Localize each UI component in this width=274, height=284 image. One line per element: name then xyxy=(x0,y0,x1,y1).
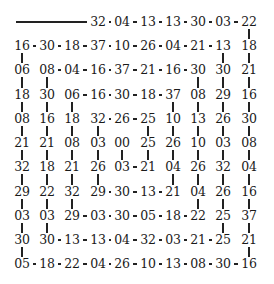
grid-number: 03 xyxy=(87,136,109,150)
grid-number: 30 xyxy=(11,233,33,247)
grid-number: 37 xyxy=(87,39,109,53)
grid-number: 21 xyxy=(36,136,58,150)
grid-number: 29 xyxy=(212,88,234,102)
grid-number: 03 xyxy=(162,233,184,247)
grid-number: 37 xyxy=(111,63,133,77)
grid-number: 21 xyxy=(238,63,260,77)
grid-number: 26 xyxy=(87,160,109,174)
grid-number: 08 xyxy=(187,257,209,271)
grid-number: 08 xyxy=(187,88,209,102)
grid-number: 04 xyxy=(162,39,184,53)
grid-number: 18 xyxy=(36,160,58,174)
grid-number: 08 xyxy=(61,136,83,150)
grid-number: 18 xyxy=(162,209,184,223)
grid-number: 30 xyxy=(238,112,260,126)
grid-number: 10 xyxy=(162,112,184,126)
grid-number: 03 xyxy=(212,136,234,150)
grid-number: 06 xyxy=(11,63,33,77)
grid-number: 03 xyxy=(87,209,109,223)
grid-number: 32 xyxy=(61,185,83,199)
grid-number: 05 xyxy=(11,257,33,271)
grid-number: 03 xyxy=(11,209,33,223)
grid-number: 25 xyxy=(212,233,234,247)
grid-number: 21 xyxy=(187,39,209,53)
start-line xyxy=(16,21,88,22)
grid-number: 04 xyxy=(162,160,184,174)
grid-number: 18 xyxy=(137,88,159,102)
grid-number: 32 xyxy=(11,160,33,174)
grid-number: 22 xyxy=(61,257,83,271)
grid-number: 30 xyxy=(111,88,133,102)
grid-number: 16 xyxy=(238,88,260,102)
grid-number: 18 xyxy=(61,39,83,53)
grid-number: 13 xyxy=(212,39,234,53)
grid-number: 32 xyxy=(212,160,234,174)
grid-number: 22 xyxy=(36,185,58,199)
grid-number: 13 xyxy=(87,233,109,247)
grid-number: 21 xyxy=(238,233,260,247)
grid-number: 18 xyxy=(11,88,33,102)
grid-number: 16 xyxy=(238,185,260,199)
grid-number: 26 xyxy=(212,185,234,199)
grid-number: 37 xyxy=(238,209,260,223)
grid-number: 22 xyxy=(238,15,260,29)
grid-number: 13 xyxy=(137,185,159,199)
grid-number: 26 xyxy=(187,160,209,174)
grid-number: 32 xyxy=(87,112,109,126)
grid-number: 08 xyxy=(36,63,58,77)
grid-number: 32 xyxy=(87,15,109,29)
grid-number: 22 xyxy=(187,209,209,223)
grid-number: 32 xyxy=(137,233,159,247)
grid-number: 30 xyxy=(187,63,209,77)
grid-number: 16 xyxy=(87,63,109,77)
grid-number: 26 xyxy=(111,257,133,271)
grid-number: 21 xyxy=(11,136,33,150)
grid-number: 30 xyxy=(187,15,209,29)
grid-number: 29 xyxy=(11,185,33,199)
grid-number: 25 xyxy=(212,209,234,223)
grid-number: 30 xyxy=(212,257,234,271)
grid-number: 30 xyxy=(212,63,234,77)
grid-number: 04 xyxy=(238,160,260,174)
grid-number: 30 xyxy=(36,233,58,247)
grid-number: 13 xyxy=(61,233,83,247)
grid-number: 37 xyxy=(162,88,184,102)
grid-number: 10 xyxy=(137,257,159,271)
grid-number: 16 xyxy=(238,257,260,271)
grid-number: 26 xyxy=(212,112,234,126)
grid-number: 05 xyxy=(137,209,159,223)
grid-number: 04 xyxy=(61,63,83,77)
grid-number: 13 xyxy=(187,112,209,126)
grid-number: 30 xyxy=(111,209,133,223)
grid-number: 10 xyxy=(111,39,133,53)
grid-number: 03 xyxy=(111,160,133,174)
grid-number: 30 xyxy=(36,39,58,53)
grid-number: 13 xyxy=(162,257,184,271)
grid-number: 06 xyxy=(61,88,83,102)
grid-number: 16 xyxy=(36,112,58,126)
grid-number: 10 xyxy=(187,136,209,150)
grid-number: 29 xyxy=(87,185,109,199)
grid-number: 25 xyxy=(137,112,159,126)
grid-number: 21 xyxy=(162,185,184,199)
grid-number: 26 xyxy=(137,39,159,53)
grid-number: 08 xyxy=(238,136,260,150)
grid-number: 18 xyxy=(238,39,260,53)
grid-number: 18 xyxy=(61,112,83,126)
grid-number: 29 xyxy=(61,209,83,223)
grid-number: 30 xyxy=(111,185,133,199)
spiral-number-grid: 3204131330032216301837102604211318060804… xyxy=(0,0,274,284)
grid-number: 25 xyxy=(137,136,159,150)
grid-number: 00 xyxy=(111,136,133,150)
grid-number: 04 xyxy=(87,257,109,271)
grid-number: 21 xyxy=(137,63,159,77)
grid-number: 30 xyxy=(36,88,58,102)
grid-number: 13 xyxy=(137,15,159,29)
grid-number: 08 xyxy=(11,112,33,126)
grid-number: 21 xyxy=(137,160,159,174)
grid-number: 26 xyxy=(111,112,133,126)
grid-number: 03 xyxy=(36,209,58,223)
grid-number: 16 xyxy=(87,88,109,102)
grid-number: 04 xyxy=(111,15,133,29)
grid-number: 13 xyxy=(162,15,184,29)
